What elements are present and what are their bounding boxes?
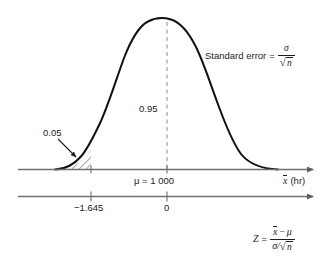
standard-error-text: Standard error	[205, 51, 266, 61]
xbar-symbol: x	[283, 175, 287, 187]
hr-unit-label: (hr)	[290, 175, 305, 186]
standard-error-radicand: n	[286, 57, 293, 69]
mean-value-label: μ = 1 000	[134, 176, 174, 186]
rejection-region-fill	[55, 150, 91, 170]
body-probability-label: 0.95	[139, 104, 158, 114]
z-score-formula: Z = x−μ σ/ √n	[253, 226, 295, 252]
z-numerator: x−μ	[271, 226, 294, 239]
tail-probability-label: 0.05	[43, 128, 62, 138]
tail-label-pointer-icon	[58, 139, 76, 157]
xbar-axis-label: x(hr)	[283, 175, 305, 187]
z-numerator-xbar: x	[273, 226, 277, 238]
z-fraction: x−μ σ/ √n	[270, 226, 295, 252]
z-denominator-sigma: σ/	[272, 241, 280, 251]
z-numerator-mu: μ	[287, 226, 292, 237]
standard-error-denominator: √n	[278, 56, 295, 69]
z-numerator-minus: −	[279, 227, 284, 237]
z-denominator-radicand: n	[286, 241, 293, 253]
sqrt-icon: √n	[280, 241, 293, 253]
z-symbol: Z	[253, 234, 259, 244]
standard-error-numerator: σ	[282, 44, 291, 55]
z-equals: =	[262, 234, 268, 244]
z-critical-tick-label: −1.645	[74, 203, 103, 213]
standard-error-equals: =	[269, 51, 275, 61]
sqrt-icon: √n	[280, 57, 293, 69]
standard-error-formula: Standard error = σ √n	[205, 44, 295, 68]
standard-error-fraction: σ √n	[278, 44, 295, 68]
z-zero-tick-label: 0	[164, 203, 169, 213]
z-denominator: σ/ √n	[270, 240, 295, 253]
